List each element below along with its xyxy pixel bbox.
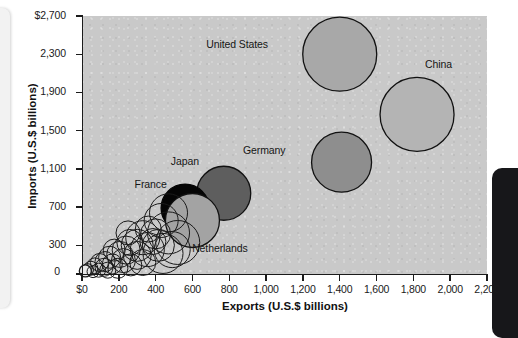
y-tick-label-2700: $2,700 [8,9,66,21]
x-tick-label-800: 800 [221,283,238,295]
bubble-label-netherlands: Netherlands [192,242,248,254]
x-axis-line [82,274,488,275]
x-tick-label-2000: 2,000 [438,283,463,295]
bubble-germany [312,132,372,192]
bubble-label-germany: Germany [243,144,285,156]
y-tick-1500 [76,130,83,131]
x-tick-400 [155,275,156,281]
bubble-other-35 [116,221,140,245]
bubble-label-china: China [425,58,452,70]
x-tick-2000 [449,275,450,281]
y-tick-300 [76,245,83,246]
x-axis-title: Exports (U.S.$ billions) [82,300,488,312]
x-tick-label-1800: 1,800 [401,283,426,295]
x-tick-1000 [265,275,266,281]
bubble-china [380,77,454,151]
bubble-united-states [303,17,377,91]
x-tick-200 [118,275,119,281]
x-tick-label-1200: 1,200 [290,283,315,295]
x-tick-label-600: 600 [184,283,201,295]
y-tick-1100 [76,168,83,169]
x-tick-600 [192,275,193,281]
x-tick-label-400: 400 [147,283,164,295]
x-tick-label-1400: 1,400 [327,283,352,295]
x-tick-1800 [413,275,414,281]
y-tick-2300 [76,54,83,55]
x-tick-label-200: 200 [110,283,127,295]
y-tick-2700 [76,15,83,16]
y-tick-700 [76,206,83,207]
x-tick-2200 [486,275,487,281]
x-tick-0 [81,275,82,281]
x-tick-1400 [339,275,340,281]
x-tick-label-2200: 2,200 [474,283,499,295]
x-tick-1600 [376,275,377,281]
bubble-label-united-states: United States [206,38,268,50]
x-tick-label-1000: 1,000 [253,283,278,295]
x-tick-label-0: $0 [76,283,87,295]
bubble-label-japan: Japan [171,155,199,167]
bubble-label-france: France [135,178,167,190]
x-tick-1200 [302,275,303,281]
x-tick-label-1600: 1,600 [364,283,389,295]
y-tick-label-0: 0 [8,265,60,277]
x-tick-800 [229,275,230,281]
y-axis-title: Imports (U.S.$ billions) [26,51,38,241]
y-tick-1900 [76,92,83,93]
